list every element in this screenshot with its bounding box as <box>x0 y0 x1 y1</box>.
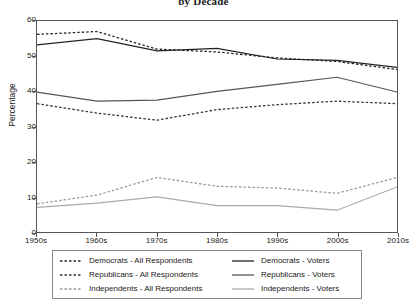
series-line <box>37 77 397 101</box>
legend-label: Democrats - Voters <box>261 256 329 265</box>
series-line <box>37 39 397 68</box>
legend-label: Republicans - Voters <box>261 270 335 279</box>
legend-line-swatch <box>231 284 255 294</box>
legend-item[interactable]: Republicans - All Respondents <box>59 268 225 282</box>
legend-item[interactable]: Republicans - Voters <box>231 268 361 282</box>
x-tick-label: 1980s <box>195 236 239 245</box>
series-lines <box>37 21 397 232</box>
plot-area <box>36 20 398 233</box>
x-tick-label: 1960s <box>74 236 118 245</box>
x-tick-label: 1970s <box>135 236 179 245</box>
series-line <box>37 32 397 70</box>
series-line <box>37 101 397 120</box>
legend-line-swatch <box>59 256 83 266</box>
legend-label: Democrats - All Respondents <box>89 256 193 265</box>
x-tick-label: 2000s <box>316 236 360 245</box>
chart-legend: Democrats - All RespondentsRepublicans -… <box>52 250 362 299</box>
legend-line-swatch <box>59 284 83 294</box>
x-tick-label: 1950s <box>14 236 58 245</box>
x-tick-label: 1990s <box>255 236 299 245</box>
series-line <box>37 177 397 203</box>
legend-column-voters: Democrats - VotersRepublicans - VotersIn… <box>225 251 361 298</box>
legend-item[interactable]: Democrats - Voters <box>231 254 361 268</box>
legend-column-all-respondents: Democrats - All RespondentsRepublicans -… <box>53 251 225 298</box>
y-axis-label: Percentage <box>7 45 17 165</box>
legend-label: Independents - Voters <box>261 284 339 293</box>
chart-title: by Decade <box>0 0 407 8</box>
legend-line-swatch <box>231 270 255 280</box>
legend-line-swatch <box>231 256 255 266</box>
x-tick-label: 2010s <box>376 236 414 245</box>
series-line <box>37 187 397 210</box>
legend-item[interactable]: Democrats - All Respondents <box>59 254 225 268</box>
legend-label: Independents - All Respondents <box>89 284 202 293</box>
legend-item[interactable]: Independents - All Respondents <box>59 282 225 296</box>
legend-label: Republicans - All Respondents <box>89 270 198 279</box>
legend-line-swatch <box>59 270 83 280</box>
legend-item[interactable]: Independents - Voters <box>231 282 361 296</box>
